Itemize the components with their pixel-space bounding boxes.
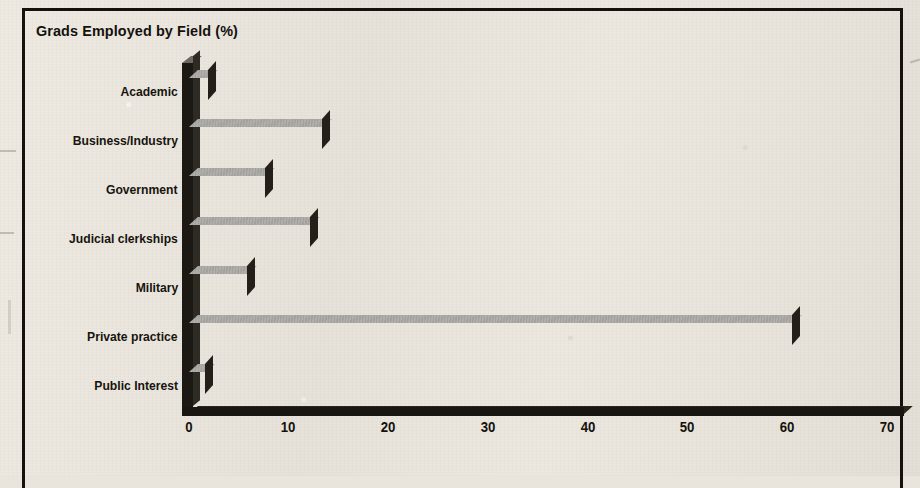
- bar-side-face: [310, 208, 318, 247]
- x-tick-label: 60: [780, 418, 795, 435]
- bar-judicial-clerkships: [189, 225, 311, 255]
- category-label: Military: [135, 280, 178, 295]
- bar-private-practice: [189, 323, 793, 353]
- x-tick-label: 30: [481, 418, 496, 435]
- x-tick-label: 70: [880, 418, 895, 435]
- bar-military: [189, 274, 248, 304]
- category-label: Business/Industry: [73, 133, 178, 148]
- bar-top-face: [189, 119, 332, 127]
- x-tick-label: 50: [680, 418, 695, 435]
- bar-side-face: [247, 257, 255, 296]
- x-axis-line: [182, 407, 904, 416]
- bar-top-face: [189, 168, 275, 176]
- bar-business-industry: [189, 127, 323, 157]
- bar-academic: [189, 78, 209, 108]
- x-tick-label: 10: [281, 418, 296, 435]
- category-label: Public Interest: [94, 378, 178, 393]
- bar-top-face: [189, 217, 320, 225]
- category-label: Government: [106, 182, 178, 197]
- x-tick-label: 0: [185, 418, 192, 435]
- bar-side-face: [208, 61, 216, 100]
- x-tick-label: 20: [381, 418, 396, 435]
- category-label: Judicial clerkships: [69, 231, 178, 246]
- bar-side-face: [322, 110, 330, 149]
- bar-government: [189, 176, 266, 206]
- x-tick-label: 40: [580, 418, 595, 435]
- category-label: Academic: [121, 84, 178, 99]
- category-label: Private practice: [87, 329, 178, 344]
- bar-side-face: [792, 306, 800, 345]
- bar-side-face: [205, 355, 213, 394]
- bar-side-face: [265, 159, 273, 198]
- bar-public-interest: [189, 372, 206, 402]
- bar-top-face: [189, 315, 802, 323]
